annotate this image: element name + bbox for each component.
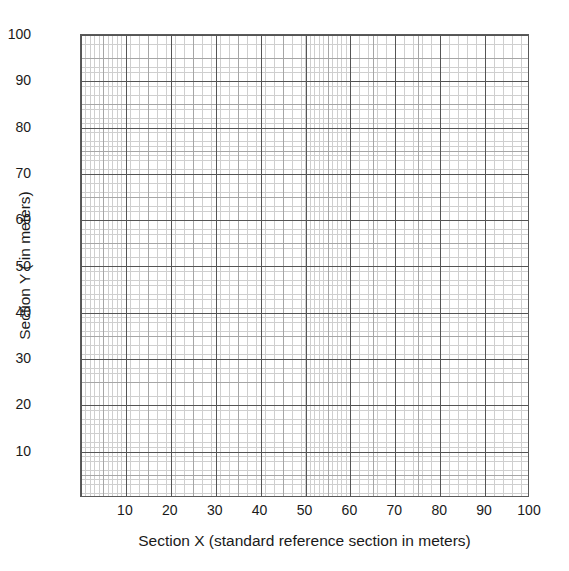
- graph-paper-figure: 102030405060708090100 102030405060708090…: [0, 0, 569, 571]
- x-tick-label: 100: [517, 503, 540, 517]
- x-tick-label: 10: [117, 503, 133, 517]
- plot-area: [80, 34, 529, 497]
- x-tick-label: 90: [476, 503, 492, 517]
- x-tick-label: 50: [297, 503, 313, 517]
- y-axis-title: Section Y ( in meters): [16, 34, 38, 497]
- grid-major-lines: [81, 35, 528, 496]
- x-axis-title: Section X (standard reference section in…: [80, 532, 529, 550]
- x-tick-label: 40: [252, 503, 268, 517]
- grid-minor-lines: [81, 35, 528, 496]
- x-tick-label: 80: [431, 503, 447, 517]
- x-tick-label: 30: [207, 503, 223, 517]
- grid-medium-lines: [81, 35, 528, 496]
- x-tick-label: 60: [342, 503, 358, 517]
- x-tick-label: 70: [387, 503, 403, 517]
- x-tick-label: 20: [162, 503, 178, 517]
